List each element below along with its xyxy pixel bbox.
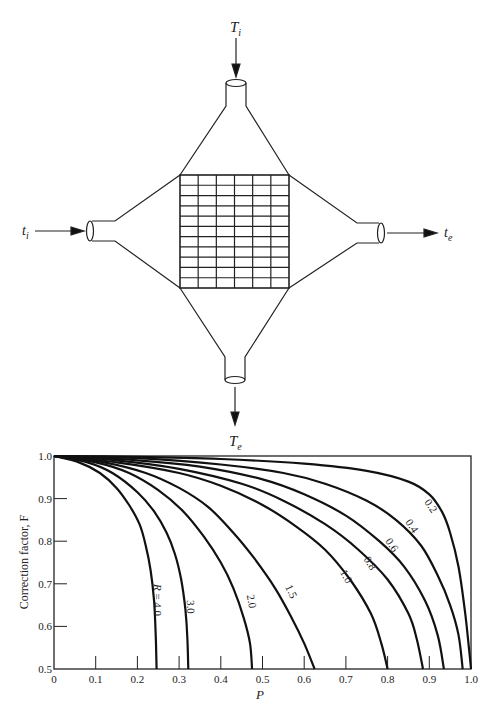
core-grid-lines (180, 175, 289, 288)
top-header-duct (180, 83, 289, 175)
curve-label: R = 4.0 (152, 583, 164, 617)
crossflow-heat-exchanger-diagram (87, 80, 385, 384)
correction-factor-chart: 00.10.20.30.40.50.60.70.80.91.00.50.60.7… (17, 450, 478, 702)
curve-label: 3.0 (185, 600, 197, 615)
right-pipe-opening (378, 223, 385, 243)
curve-R-4.0 (54, 456, 157, 669)
x-tick-label: 0.6 (297, 673, 311, 685)
cold-inlet-label: ti (22, 223, 29, 241)
y-tick-label: 0.6 (38, 620, 52, 632)
right-header-duct (289, 175, 379, 288)
x-tick-label: 0 (51, 673, 57, 685)
cold-outlet-arrowhead-icon (424, 229, 437, 237)
curve-R-2.0 (54, 456, 252, 669)
hot-inlet-arrowhead-icon (232, 64, 240, 77)
y-tick-label: 0.9 (38, 493, 52, 505)
cold-outlet-label: te (444, 225, 453, 243)
y-tick-label: 0.8 (38, 535, 52, 547)
curve-label: 0.2 (422, 497, 440, 515)
curves (54, 456, 471, 669)
hot-inlet-label: Ti (230, 19, 241, 38)
y-tick-label: 0.7 (38, 578, 52, 590)
x-tick-label: 0.4 (214, 673, 228, 685)
top-pipe-opening (226, 80, 246, 87)
x-tick-label: 1.0 (464, 673, 478, 685)
left-pipe-opening (87, 221, 94, 241)
figure: Ti Te ti te 00.10.20.30.40.50.60.70.80.9… (0, 0, 493, 712)
x-tick-label: 0.9 (422, 673, 436, 685)
x-tick-label: 0.8 (381, 673, 395, 685)
x-tick-label: 0.5 (256, 673, 270, 685)
y-tick-label: 1.0 (38, 450, 52, 462)
y-axis-label: Correction factor, F (17, 514, 31, 609)
cold-inlet-arrowhead-icon (71, 227, 84, 235)
curve-R-3.0 (54, 456, 188, 669)
curve-label: 2.0 (245, 593, 259, 609)
x-axis-label: P (255, 687, 264, 702)
y-tick-label: 0.5 (38, 663, 52, 675)
bottom-header-duct (180, 288, 289, 380)
left-header-duct (92, 175, 180, 288)
x-tick-label: 0.7 (339, 673, 353, 685)
x-tick-label: 0.3 (172, 673, 186, 685)
hot-outlet-label: Te (229, 433, 242, 452)
curve-label: 0.8 (362, 554, 380, 572)
axis-ticks (54, 499, 429, 669)
axis-tick-labels: 00.10.20.30.40.50.60.70.80.91.00.50.60.7… (38, 450, 478, 685)
hot-outlet-arrowhead-icon (231, 412, 239, 425)
curve-label: 0.6 (383, 536, 401, 555)
flow-arrows (35, 38, 437, 425)
curve-label: 0.4 (403, 517, 421, 536)
x-tick-label: 0.2 (131, 673, 145, 685)
bottom-pipe-opening (225, 377, 245, 384)
curve-R-1.5 (54, 456, 315, 669)
x-tick-label: 0.1 (89, 673, 103, 685)
curve-label: 1.5 (283, 583, 300, 601)
